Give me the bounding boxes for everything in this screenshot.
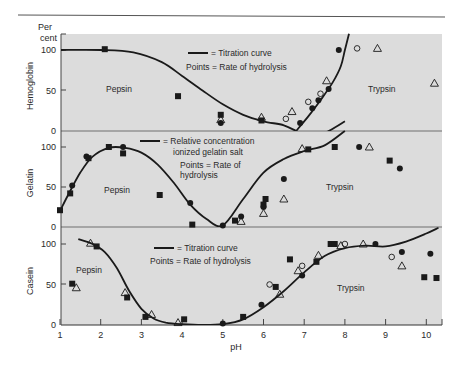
point-filled-circle: [336, 47, 342, 53]
point-filled-circle: [281, 176, 287, 182]
point-square: [332, 144, 338, 150]
point-square: [106, 144, 112, 150]
gel-legend-line-text2: ionized gelatin salt: [173, 147, 244, 157]
chart-figure: Per cent Hemoglobin Gelatin Casein 100 5…: [0, 0, 467, 372]
point-filled-circle: [220, 320, 226, 326]
panel-label-hemoglobin: Hemoglobin: [25, 62, 35, 110]
hb-tick-50: 50: [46, 86, 56, 96]
gel-legend-line-text1: = Relative concentration: [163, 136, 255, 146]
point-square: [189, 222, 195, 228]
point-square: [120, 150, 126, 156]
point-square: [332, 241, 338, 247]
gel-trypsin-label: Trypsin: [326, 182, 354, 192]
x-tick-label: 5: [220, 330, 225, 340]
gel-tick-100: 100: [41, 142, 56, 152]
gel-legend-points-text1: Points = Rate of: [180, 160, 241, 170]
point-filled-circle: [220, 222, 226, 228]
hb-pepsin-label: Pepsin: [106, 84, 132, 94]
point-square: [287, 256, 293, 262]
point-filled-circle: [309, 105, 315, 111]
hb-legend-points-text: Points = Rate of hydrolysis: [186, 62, 287, 72]
point-filled-circle: [69, 182, 75, 188]
point-filled-circle: [120, 144, 126, 150]
panel-label-casein: Casein: [25, 267, 35, 295]
point-square: [175, 93, 181, 99]
point-filled-circle: [83, 154, 89, 160]
point-square: [157, 192, 163, 198]
cas-tick-0: 0: [51, 320, 56, 330]
x-tick-label: 1: [57, 330, 62, 340]
point-square: [102, 46, 108, 52]
top-rule: [18, 15, 445, 17]
point-filled-circle: [258, 302, 264, 308]
point-square: [181, 316, 187, 322]
point-square: [433, 275, 439, 281]
hb-trypsin-label: Trypsin: [368, 84, 396, 94]
y-unit-line2: cent: [40, 33, 58, 43]
point-filled-circle: [427, 251, 433, 257]
plot-area: [61, 34, 442, 325]
x-tick-label: 9: [383, 330, 388, 340]
cas-tick-100: 100: [41, 239, 56, 249]
point-filled-circle: [399, 249, 405, 255]
x-tick-label: 8: [342, 330, 347, 340]
point-square: [240, 314, 246, 320]
cas-pepsin-label: Pepsin: [76, 265, 102, 275]
gel-tick-50: 50: [46, 182, 56, 192]
point-square: [421, 274, 427, 280]
x-tick-label: 10: [421, 330, 431, 340]
gel-pepsin-label: Pepsin: [104, 185, 130, 195]
point-filled-circle: [315, 97, 321, 103]
point-filled-circle: [187, 200, 193, 206]
x-tick-label: 6: [261, 330, 266, 340]
x-axis-label: pH: [230, 342, 242, 352]
point-square: [69, 281, 75, 287]
point-filled-circle: [297, 120, 303, 126]
point-square: [273, 284, 279, 290]
gel-legend-points-text2: hydrolysis: [180, 170, 218, 180]
point-square: [263, 196, 269, 202]
gel-tick-0: 0: [51, 222, 56, 232]
point-filled-circle: [372, 241, 378, 247]
cas-legend-points-text: Points = Rate of hydrolysis: [150, 256, 251, 266]
hb-tick-0: 0: [51, 126, 56, 136]
x-tick-label: 3: [139, 330, 144, 340]
cas-legend-line-text: = Titration curve: [177, 243, 238, 253]
point-filled-circle: [326, 86, 332, 92]
cas-trypsin-label: Trypsin: [337, 283, 365, 293]
point-square: [232, 218, 238, 224]
point-square: [313, 259, 319, 265]
point-filled-circle: [356, 144, 362, 150]
x-tick-label: 2: [98, 330, 103, 340]
y-unit-line1: Per: [38, 22, 52, 32]
cas-tick-50: 50: [46, 280, 56, 290]
panel-label-gelatin: Gelatin: [25, 169, 35, 198]
point-square: [67, 190, 73, 196]
point-square: [387, 158, 393, 164]
point-filled-circle: [397, 166, 403, 172]
point-square: [57, 207, 63, 213]
hb-legend-line-text: = Titration curve: [211, 48, 272, 58]
x-tick-label: 4: [180, 330, 185, 340]
x-tick-label: 7: [302, 330, 307, 340]
hb-tick-100: 100: [41, 45, 56, 55]
